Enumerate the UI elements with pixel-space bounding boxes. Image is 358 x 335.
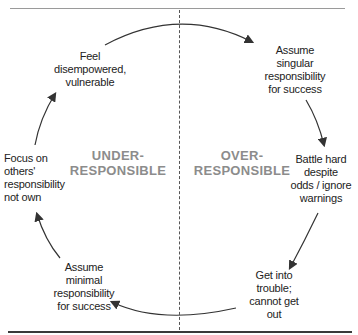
node-line: disempowered, [45, 63, 135, 76]
node-line: Feel [45, 50, 135, 63]
node-line: responsibility [250, 70, 340, 83]
arrow-trouble-to-minimal [112, 302, 236, 315]
arrow-battle-to-trouble [290, 213, 318, 268]
node-line: not own [4, 191, 72, 204]
node-line: responsibility [44, 287, 124, 300]
node-line: singular [250, 57, 340, 70]
node-line: warnings [282, 192, 358, 205]
node-line: out [238, 308, 310, 321]
node-battle-hard: Battle hard despite odds / ignore warnin… [282, 153, 358, 205]
zone-under-line2: RESPONSIBLE [68, 163, 168, 178]
node-line: trouble; [238, 282, 310, 295]
arrow-feel-to-singular [105, 24, 252, 45]
node-line: despite [282, 166, 358, 179]
node-line: cannot get [238, 295, 310, 308]
node-assume-minimal: Assume minimal responsibility for succes… [44, 261, 124, 313]
arrow-singular-to-battle [306, 100, 324, 145]
node-line: vulnerable [45, 76, 135, 89]
zone-over-line2: RESPONSIBLE [192, 163, 292, 178]
arrow-minimal-to-focus [37, 214, 60, 258]
bottom-rule [8, 331, 352, 333]
zone-under-line1: UNDER- [68, 148, 168, 163]
zone-label-under-responsible: UNDER- RESPONSIBLE [68, 148, 168, 178]
node-line: odds / ignore [282, 179, 358, 192]
node-line: Focus on [4, 152, 72, 165]
arrow-focus-to-feel [35, 94, 55, 145]
zone-over-line1: OVER- [192, 148, 292, 163]
node-focus-on-others: Focus on others' responsibility not own [4, 152, 72, 204]
node-line: for success [250, 83, 340, 96]
node-line: Assume [44, 261, 124, 274]
node-line: responsibility [4, 178, 72, 191]
node-line: others' [4, 165, 72, 178]
node-get-into-trouble: Get into trouble; cannot get out [238, 269, 310, 321]
node-line: minimal [44, 274, 124, 287]
node-assume-singular: Assume singular responsibility for succe… [250, 44, 340, 96]
node-feel-disempowered: Feel disempowered, vulnerable [45, 50, 135, 89]
node-line: Assume [250, 44, 340, 57]
node-line: for success [44, 300, 124, 313]
zone-label-over-responsible: OVER- RESPONSIBLE [192, 148, 292, 178]
node-line: Get into [238, 269, 310, 282]
node-line: Battle hard [282, 153, 358, 166]
